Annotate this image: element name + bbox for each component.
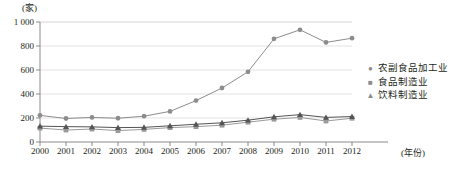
legend-circle-icon: ● (365, 62, 376, 76)
data-point (142, 114, 147, 119)
data-point (38, 113, 43, 118)
legend-item-0: ● 农副食品加工业 (365, 62, 448, 76)
data-point (298, 27, 303, 32)
legend-item-1: ■ 食品制造业 (365, 76, 448, 90)
data-point (64, 116, 69, 121)
data-point (324, 40, 329, 45)
legend-item-2: ▲ 饮料制造业 (365, 89, 448, 103)
y-axis-ticks (36, 22, 40, 142)
data-series-group (37, 27, 355, 133)
legend-label-2: 饮料制造业 (378, 89, 428, 103)
data-point (350, 36, 355, 41)
legend-label-0: 农副食品加工业 (378, 62, 448, 76)
chart-legend: ● 农副食品加工业 ■ 食品制造业 ▲ 饮料制造业 (365, 62, 448, 103)
legend-square-icon: ■ (365, 76, 376, 90)
data-point (116, 116, 121, 121)
data-point (90, 115, 95, 120)
x-axis-unit-label: (年份) (401, 146, 425, 159)
axis-lines (40, 22, 388, 142)
legend-label-1: 食品制造业 (378, 76, 428, 90)
data-point (272, 36, 277, 41)
gridlines (40, 22, 352, 118)
data-point (220, 86, 225, 91)
data-point (168, 109, 173, 114)
legend-triangle-icon: ▲ (365, 89, 376, 103)
data-point (194, 98, 199, 103)
data-point (246, 69, 251, 74)
chart-container: (家) 1 000 800 600 400 200 0 200020012002… (0, 0, 467, 173)
x-axis-label-2012: 2012 (337, 146, 367, 156)
series-0 (38, 27, 355, 120)
